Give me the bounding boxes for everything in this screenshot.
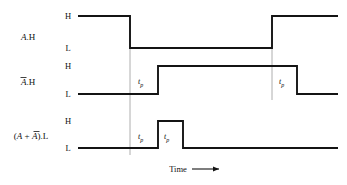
level-label-high-row3: H (65, 116, 71, 126)
level-label-low-row3: L (65, 143, 70, 153)
diagram-background (0, 0, 347, 185)
timing-diagram: A.H H L A.H H L tp tp (A + A).L H L tp (0, 0, 347, 185)
level-label-high-row2: H (65, 61, 71, 71)
time-axis-label: Time (169, 164, 187, 174)
level-label-high-row1: H (65, 11, 71, 21)
level-label-low-row1: L (65, 43, 70, 53)
level-label-low-row2: L (65, 89, 70, 99)
signal-label-a-plus-abar-l: (A + A).L (14, 131, 48, 141)
signal-label-abar-h: A.H (20, 77, 36, 87)
signal-label-a-h: A.H (20, 32, 36, 42)
